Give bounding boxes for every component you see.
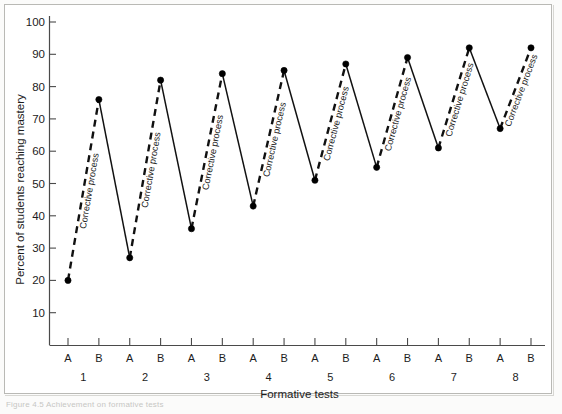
x-axis-point-label: B	[404, 352, 411, 364]
y-axis-tick-label: 40	[32, 210, 45, 222]
decline-segment	[161, 80, 192, 229]
corrective-process-annotation: Corrective process	[78, 152, 101, 230]
y-axis-tick-label: 90	[32, 48, 45, 60]
data-point-marker	[281, 67, 287, 73]
data-point-marker	[528, 45, 534, 51]
y-axis-title: Percent of students reaching mastery	[14, 94, 26, 285]
figure-container: 102030405060708090100Percent of students…	[0, 0, 562, 414]
y-axis-tick-label: 80	[32, 81, 45, 93]
corrective-process-annotation: Corrective process	[200, 113, 225, 190]
x-axis-point-label: A	[64, 352, 72, 364]
data-point-marker	[435, 145, 441, 151]
x-axis-group-label: 6	[389, 371, 395, 383]
y-axis-tick-label: 70	[32, 113, 45, 125]
decline-segment	[408, 58, 439, 148]
figure-caption: Figure 4.5 Achievement on formative test…	[6, 400, 164, 409]
x-axis-point-label: B	[342, 352, 349, 364]
x-axis-point-label: A	[188, 352, 196, 364]
x-axis-group-label: 3	[204, 371, 210, 383]
data-point-marker	[466, 45, 472, 51]
x-axis-point-label: B	[466, 352, 473, 364]
data-point-marker	[188, 226, 194, 232]
data-point-marker	[250, 203, 256, 209]
data-point-marker	[343, 61, 349, 67]
decline-segment	[99, 100, 130, 258]
data-point-marker	[497, 125, 503, 131]
data-point-marker	[312, 177, 318, 183]
data-point-marker	[65, 277, 71, 283]
x-axis-point-label: B	[95, 352, 102, 364]
x-axis-group-label: 8	[513, 371, 519, 383]
x-axis-point-label: B	[157, 352, 164, 364]
y-axis-tick-label: 100	[26, 16, 45, 28]
data-point-marker	[404, 54, 410, 60]
x-axis-point-label: A	[435, 352, 443, 364]
y-axis-tick-label: 30	[32, 242, 45, 254]
x-axis-point-label: A	[126, 352, 134, 364]
y-axis-tick-label: 20	[32, 274, 45, 286]
decline-segment	[469, 48, 500, 129]
y-axis-tick-label: 50	[32, 178, 45, 190]
decline-segment	[222, 74, 253, 206]
data-point-marker	[127, 255, 133, 261]
data-point-marker	[158, 77, 164, 83]
x-axis-point-label: A	[496, 352, 504, 364]
x-axis-point-label: A	[250, 352, 258, 364]
corrective-process-annotation: Corrective process	[503, 52, 540, 127]
data-point-marker	[374, 164, 380, 170]
x-axis-point-label: B	[280, 352, 287, 364]
x-axis-point-label: A	[373, 352, 381, 364]
x-axis-group-label: 1	[80, 371, 86, 383]
x-axis-point-label: B	[527, 352, 534, 364]
x-axis-title: Formative tests	[260, 388, 339, 400]
y-axis-tick-label: 10	[32, 307, 45, 319]
x-axis-point-label: A	[311, 352, 319, 364]
y-axis-tick-label: 60	[32, 145, 45, 157]
chart-plot: 102030405060708090100Percent of students…	[0, 0, 562, 414]
corrective-process-annotation: Corrective process	[140, 131, 163, 209]
x-axis-group-label: 7	[451, 371, 457, 383]
data-point-marker	[96, 96, 102, 102]
corrective-process-annotation: Corrective process	[444, 61, 476, 138]
x-axis-group-label: 4	[266, 371, 272, 383]
corrective-process-annotation: Corrective process	[383, 75, 413, 152]
decline-segment	[284, 70, 315, 180]
data-point-marker	[219, 71, 225, 77]
x-axis-group-label: 2	[142, 371, 148, 383]
decline-segment	[346, 64, 377, 167]
x-axis-point-label: B	[219, 352, 226, 364]
x-axis-group-label: 5	[327, 371, 333, 383]
